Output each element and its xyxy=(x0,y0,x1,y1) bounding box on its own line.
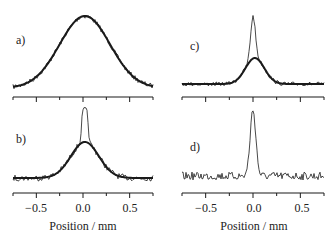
panel-c xyxy=(182,16,324,103)
figure: a) b) c) d) −0.5 0.0 0.5 Position / mm −… xyxy=(0,0,335,242)
gaussian-fit-line xyxy=(13,142,153,178)
panel-d xyxy=(182,111,324,198)
panel-label-d: d) xyxy=(190,140,200,154)
panel-b xyxy=(13,108,153,198)
tick-label-left-0: 0.0 xyxy=(76,201,91,215)
tick-label-right-05: 0.5 xyxy=(295,201,310,215)
panel-label-b: b) xyxy=(16,132,26,146)
panel-label-a: a) xyxy=(16,33,25,47)
measured-profile-line xyxy=(13,108,153,181)
tick-label-right-0: 0.0 xyxy=(247,201,262,215)
x-axis-label-left: Position / mm xyxy=(49,219,117,233)
measured-profile-line xyxy=(182,16,324,86)
tick-label-left-neg05: −0.5 xyxy=(25,201,47,215)
gaussian-fit-line xyxy=(182,58,324,84)
tick-label-right-neg05: −0.5 xyxy=(195,201,217,215)
panel-a xyxy=(13,15,153,102)
x-axis-label-right: Position / mm xyxy=(220,219,288,233)
panel-label-c: c) xyxy=(190,39,199,53)
gaussian-fit-line xyxy=(13,16,153,87)
measured-profile-line xyxy=(182,111,324,180)
tick-label-left-05: 0.5 xyxy=(123,201,138,215)
